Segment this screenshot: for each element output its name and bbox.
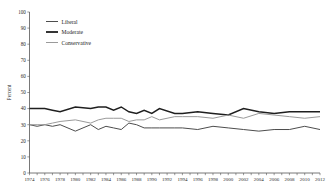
- x-tick-label: 2006: [269, 177, 280, 182]
- y-axis: 0102030405060708090100: [18, 9, 29, 176]
- series-line-moderate: [30, 107, 321, 115]
- x-tick-label: 2012: [315, 177, 326, 182]
- x-tick-label: 2000: [223, 177, 234, 182]
- y-axis-title: Percent: [6, 84, 12, 100]
- y-tick-label: 100: [18, 9, 26, 15]
- x-axis: 1974197619781980198219841986198819901992…: [25, 173, 326, 182]
- y-tick-label: 70: [21, 57, 27, 63]
- x-tick-label: 1998: [208, 177, 219, 182]
- chart-legend: LiberalModerateConservative: [46, 19, 92, 46]
- x-tick-label: 2008: [284, 177, 295, 182]
- line-chart: 0102030405060708090100 19741976197819801…: [0, 0, 329, 195]
- legend-label-liberal: Liberal: [62, 19, 79, 25]
- y-tick-label: 0: [23, 170, 26, 176]
- x-tick-label: 1988: [132, 177, 143, 182]
- y-tick-label: 80: [21, 41, 27, 47]
- series-line-liberal: [30, 123, 321, 131]
- y-tick-label: 60: [21, 73, 27, 79]
- y-tick-label: 40: [21, 105, 27, 111]
- y-tick-label: 50: [21, 89, 27, 95]
- legend-label-moderate: Moderate: [62, 29, 84, 35]
- x-tick-label: 1978: [55, 177, 66, 182]
- x-tick-label: 2002: [239, 177, 250, 182]
- series-lines: [30, 107, 321, 131]
- x-tick-label: 1984: [101, 177, 112, 182]
- y-tick-label: 30: [21, 122, 27, 128]
- x-tick-label: 1980: [70, 177, 81, 182]
- y-tick-label: 20: [21, 138, 27, 144]
- x-tick-label: 1992: [162, 177, 173, 182]
- x-tick-label: 1974: [25, 177, 36, 182]
- y-tick-label: 10: [21, 154, 27, 160]
- x-tick-label: 1982: [86, 177, 97, 182]
- legend-label-conservative: Conservative: [62, 40, 92, 46]
- x-tick-label: 1994: [177, 177, 188, 182]
- x-tick-label: 1976: [40, 177, 51, 182]
- chart-container: 0102030405060708090100 19741976197819801…: [0, 0, 329, 195]
- y-tick-label: 90: [21, 25, 27, 31]
- x-tick-label: 2004: [254, 177, 265, 182]
- series-line-conservative: [30, 113, 321, 124]
- x-tick-label: 2010: [300, 177, 311, 182]
- x-tick-label: 1996: [193, 177, 204, 182]
- x-tick-label: 1986: [116, 177, 127, 182]
- x-tick-label: 1990: [147, 177, 158, 182]
